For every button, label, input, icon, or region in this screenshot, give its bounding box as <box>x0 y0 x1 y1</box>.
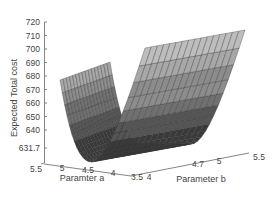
y-tick-label: 5 <box>217 156 222 166</box>
x-tick-label: 5.5 <box>30 164 42 174</box>
y-tick-label: 4.7 <box>192 159 204 169</box>
x-tick-label: 5 <box>60 163 65 173</box>
z-tick-label: 660 <box>26 98 40 108</box>
z-tick-label: 631.7 <box>19 143 41 153</box>
cost-surface <box>60 30 245 162</box>
z-tick-label: 640 <box>26 125 40 135</box>
z-tick-label: 680 <box>26 71 40 81</box>
z-tick-label: 700 <box>26 44 40 54</box>
y-tick-label: 5.5 <box>253 152 265 162</box>
y-axis-label: Parameter b <box>176 174 226 184</box>
x-tick-label: 3.5 <box>131 172 143 182</box>
z-axis-label: Expected Total cost <box>9 59 19 137</box>
z-tick-label: 690 <box>26 58 40 68</box>
x-axis-label: Paramter a <box>60 173 105 183</box>
z-tick-label: 710 <box>26 31 40 41</box>
z-tick-label: 650 <box>26 112 40 122</box>
z-axis: 720710700690680670660650640631.7 <box>19 17 47 164</box>
x-tick-label: 4 <box>111 168 116 178</box>
z-tick-label: 720 <box>26 17 40 27</box>
y-tick-label: 4 <box>147 172 152 182</box>
surface-chart: 720710700690680670660650640631.7 Expecte… <box>0 0 277 200</box>
z-tick-label: 670 <box>26 85 40 95</box>
